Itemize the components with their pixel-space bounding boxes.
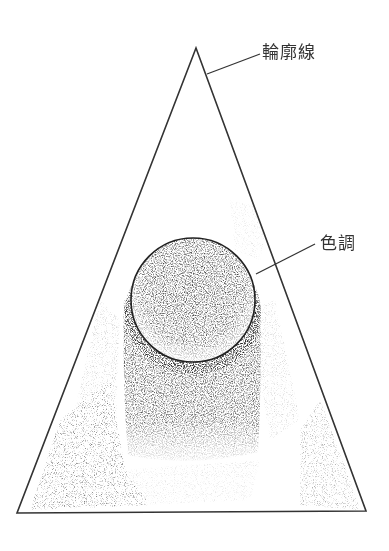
triangle-shading-illustration <box>0 0 389 551</box>
tone-circle <box>131 238 255 362</box>
tone-leader-line <box>256 244 315 274</box>
outline-leader-line <box>207 54 260 74</box>
outline-label: 輪廓線 <box>262 38 316 63</box>
diagram-canvas: 輪廓線 色調 <box>0 0 389 551</box>
tone-label: 色調 <box>320 229 356 254</box>
